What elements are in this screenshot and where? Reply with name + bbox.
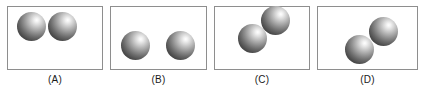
sphere-a-1 — [17, 12, 46, 41]
option-panel-b[interactable] — [110, 6, 207, 70]
option-panel-c[interactable] — [214, 6, 310, 70]
option-panel-a[interactable] — [7, 6, 103, 70]
option-label-d: (D) — [317, 74, 418, 86]
option-panel-d[interactable] — [317, 6, 418, 70]
sphere-c-2 — [261, 6, 290, 35]
option-label-b: (B) — [110, 74, 207, 86]
panel-a-contents — [8, 7, 102, 69]
option-label-c: (C) — [214, 74, 310, 86]
panel-b-contents — [111, 7, 206, 69]
sphere-d-2 — [369, 17, 398, 46]
multiple-choice-figure: (A) (B) (C) (D) — [0, 0, 427, 94]
sphere-a-2 — [48, 12, 77, 41]
panel-d-contents — [318, 7, 417, 69]
sphere-b-2 — [166, 31, 195, 60]
sphere-b-1 — [121, 31, 150, 60]
answer-option-panels: (A) (B) (C) (D) — [0, 0, 427, 94]
panel-c-contents — [215, 7, 309, 69]
option-label-a: (A) — [7, 74, 103, 86]
sphere-d-1 — [345, 35, 374, 64]
